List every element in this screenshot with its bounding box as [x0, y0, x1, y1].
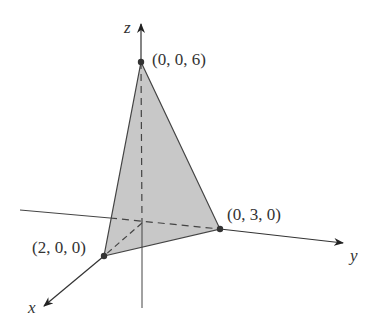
y-axis-label: y: [350, 246, 358, 266]
x-axis: [44, 256, 104, 306]
y-axis-negative: [20, 210, 110, 218]
point-0-3-0: [217, 226, 223, 232]
x-axis-label: x: [28, 298, 36, 318]
diagram-canvas: z y x (0, 0, 6) (0, 3, 0) (2, 0, 0): [0, 0, 371, 328]
point-0-0-6: [138, 59, 144, 65]
point-2-0-0: [101, 253, 107, 259]
z-axis-label: z: [124, 18, 131, 38]
point-label-0-3-0: (0, 3, 0): [227, 205, 281, 225]
point-label-2-0-0: (2, 0, 0): [32, 238, 86, 258]
triangle-plane: [104, 62, 220, 256]
point-label-0-0-6: (0, 0, 6): [152, 50, 206, 70]
y-axis: [220, 229, 343, 243]
